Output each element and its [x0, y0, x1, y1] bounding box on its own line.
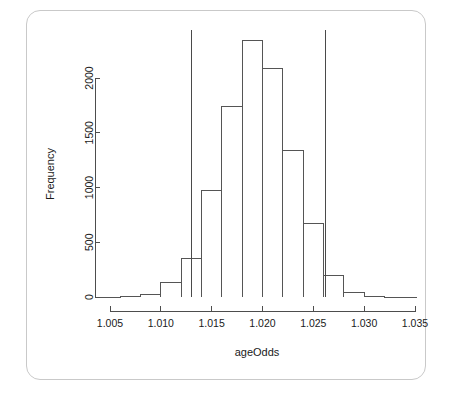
plot-area: 0500100015002000 Frequency 1.0051.0101.0…: [0, 0, 455, 403]
x-tick-label: 1.015: [199, 317, 225, 329]
x-axis-title: ageOdds: [235, 346, 280, 358]
y-tick-label: 2000: [83, 66, 95, 90]
y-tick-label: 1000: [83, 176, 95, 200]
x-tick-label: 1.010: [148, 317, 174, 329]
x-axis-line: [110, 306, 415, 311]
y-tick-labels: 0500100015002000: [83, 66, 95, 300]
y-tick-label: 0: [83, 294, 95, 300]
x-axis: 1.0051.0101.0151.0201.0251.0301.035 ageO…: [97, 306, 428, 358]
histogram-bars: [100, 41, 417, 297]
y-axis-line: [95, 78, 100, 297]
histogram-svg: 0500100015002000 Frequency 1.0051.0101.0…: [0, 0, 455, 403]
x-tick-label: 1.030: [351, 317, 377, 329]
y-tick-label: 1500: [83, 121, 95, 145]
x-tick-label: 1.020: [249, 317, 275, 329]
bar-outline-path: [100, 41, 417, 297]
reference-lines: [191, 30, 325, 297]
x-tick-labels: 1.0051.0101.0151.0201.0251.0301.035: [97, 317, 428, 329]
y-axis: 0500100015002000 Frequency: [44, 66, 100, 300]
x-tick-label: 1.025: [300, 317, 326, 329]
x-tick-label: 1.035: [402, 317, 428, 329]
x-tick-label: 1.005: [97, 317, 123, 329]
y-axis-title: Frequency: [44, 148, 56, 200]
y-tick-label: 500: [83, 233, 95, 251]
